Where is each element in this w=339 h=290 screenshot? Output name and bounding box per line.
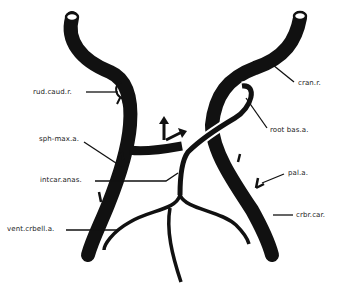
label-root-bas-a: root bas.a. bbox=[270, 127, 308, 134]
label-crbr-car: crbr.car. bbox=[296, 212, 325, 219]
vessel-diagram: rud.caud.r. sph-max.a. intcar.anas. vent… bbox=[0, 0, 339, 290]
label-pal-a: pal.a. bbox=[288, 170, 308, 177]
vessel-drawing bbox=[0, 0, 339, 290]
label-cran-r: cran.r. bbox=[298, 80, 321, 87]
label-intcar-anas: intcar.anas. bbox=[40, 177, 82, 184]
basilar-branches bbox=[104, 195, 249, 282]
label-vent-crbell-a: vent.crbell.a. bbox=[7, 226, 54, 233]
label-rud-caud-r: rud.caud.r. bbox=[33, 89, 72, 96]
label-sph-max-a: sph-max.a. bbox=[39, 136, 79, 143]
flow-arrows bbox=[159, 116, 187, 140]
